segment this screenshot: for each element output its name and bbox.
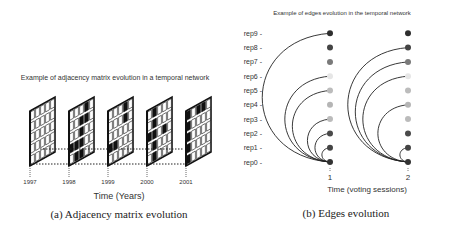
matrix-cell xyxy=(187,132,191,142)
node-dot-rep7-s2 xyxy=(405,59,411,65)
matrix-cell xyxy=(31,121,35,131)
panel-a-xlabel: Time (Years) xyxy=(94,191,145,201)
matrix-cell xyxy=(41,104,45,114)
matrix-cell xyxy=(90,132,94,142)
matrix-cell xyxy=(75,107,79,117)
node-dot-rep2-s2 xyxy=(405,130,411,136)
matrix-cell xyxy=(153,151,157,161)
matrix-cell xyxy=(124,123,128,133)
node-dot-rep2-s1 xyxy=(327,130,333,136)
matrix-cell xyxy=(207,110,211,120)
matrix-cell xyxy=(36,118,40,128)
year-ticks xyxy=(30,168,186,177)
matrix-cell xyxy=(46,112,50,122)
node-labels: rep0 -rep1 -rep2 -rep3 -rep4 -rep5 -rep6… xyxy=(244,30,263,167)
matrix-cell xyxy=(36,151,40,161)
matrix-cell xyxy=(85,134,89,144)
matrix-cell xyxy=(148,143,152,153)
matrix-cell xyxy=(158,104,162,114)
panel-adjacency: Example of adjacency matrix evolution in… xyxy=(21,74,211,221)
matrix-cell xyxy=(90,99,94,109)
matrix-cell xyxy=(187,154,191,164)
matrix-cell xyxy=(129,143,133,153)
node-dot-rep4-s2 xyxy=(405,102,411,108)
matrix-cell xyxy=(75,118,79,128)
matrix-cell xyxy=(207,143,211,153)
adjacency-matrix-2001 xyxy=(186,97,211,166)
matrix-cell xyxy=(109,132,113,142)
node-label-rep7: rep7 - xyxy=(244,58,263,66)
matrix-cell xyxy=(153,107,157,117)
panel-a-caption: (a) Adjacency matrix evolution xyxy=(50,208,188,221)
node-dot-rep8-s2 xyxy=(405,45,411,51)
matrix-cell xyxy=(80,104,84,114)
matrix-cell xyxy=(51,99,55,109)
matrix-cell xyxy=(197,148,201,158)
edge-arc xyxy=(285,76,330,162)
node-dot-rep6-s1 xyxy=(327,73,333,79)
matrix-cell xyxy=(85,101,89,111)
matrix-cell xyxy=(31,143,35,153)
node-dot-rep5-s2 xyxy=(405,88,411,94)
matrix-cell xyxy=(85,123,89,133)
year-label-1: 1998 xyxy=(62,179,76,185)
matrix-cell xyxy=(70,110,74,120)
matrix-cell xyxy=(119,126,123,136)
matrix-cell xyxy=(109,110,113,120)
edge-arcs xyxy=(262,33,408,162)
node-label-rep1: rep1 - xyxy=(244,144,263,152)
matrix-cell xyxy=(90,121,94,131)
matrix-cell xyxy=(192,151,196,161)
matrix-cell xyxy=(202,101,206,111)
matrix-cell xyxy=(202,145,206,155)
matrix-cell xyxy=(90,110,94,120)
matrix-cell xyxy=(148,132,152,142)
edge-arc xyxy=(348,48,408,162)
node-dot-rep5-s1 xyxy=(327,88,333,94)
matrix-cell xyxy=(168,143,172,153)
matrix-cell xyxy=(207,121,211,131)
matrix-cell xyxy=(36,129,40,139)
matrix-cell xyxy=(85,145,89,155)
matrix-cell xyxy=(163,123,167,133)
matrix-cell xyxy=(192,118,196,128)
year-label-0: 1997 xyxy=(23,179,37,185)
matrix-cell xyxy=(46,123,50,133)
tick-label-1: 1 xyxy=(328,173,333,182)
tick-label-2: 2 xyxy=(406,173,411,182)
panel-b-title: Example of edges evolution in the tempor… xyxy=(273,10,412,16)
matrix-cell xyxy=(129,99,133,109)
matrix-cell xyxy=(158,148,162,158)
node-dot-rep7-s1 xyxy=(327,59,333,65)
node-dot-rep9-s2 xyxy=(405,30,411,36)
matrix-cell xyxy=(70,154,74,164)
matrix-cell xyxy=(41,148,45,158)
edge-arc xyxy=(307,119,330,162)
matrix-cell xyxy=(207,99,211,109)
matrix-cell xyxy=(163,145,167,155)
matrix-cell xyxy=(148,154,152,164)
node-label-rep9: rep9 - xyxy=(244,30,263,38)
matrix-cell xyxy=(85,112,89,122)
matrix-cell xyxy=(202,112,206,122)
matrix-cell xyxy=(119,137,123,147)
node-label-rep3: rep3 - xyxy=(244,116,263,124)
panel-edges: Example of edges evolution in the tempor… xyxy=(244,10,412,220)
matrix-cell xyxy=(129,132,133,142)
matrix-cell xyxy=(114,107,118,117)
matrix-cell xyxy=(163,112,167,122)
matrix-cell xyxy=(168,110,172,120)
node-dot-rep0-s1 xyxy=(327,159,333,165)
matrix-cell xyxy=(202,134,206,144)
matrix-cell xyxy=(124,134,128,144)
node-label-rep2: rep2 - xyxy=(244,130,263,138)
matrix-cell xyxy=(119,104,123,114)
node-label-rep8: rep8 - xyxy=(244,44,263,52)
year-label-4: 2001 xyxy=(179,179,193,185)
node-dot-rep3-s1 xyxy=(327,116,333,122)
node-dot-rep8-s1 xyxy=(327,45,333,51)
matrix-stack xyxy=(30,97,211,166)
matrix-cell xyxy=(158,137,162,147)
matrix-cell xyxy=(80,137,84,147)
matrix-cell xyxy=(31,132,35,142)
